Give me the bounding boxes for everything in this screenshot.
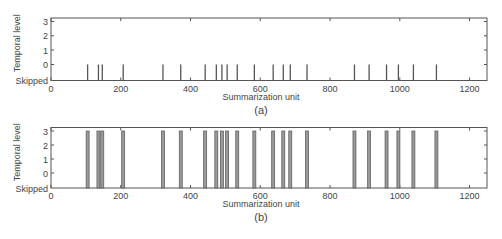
data-bar: [179, 131, 182, 188]
y-tick-label: 2: [43, 31, 48, 41]
data-bar: [272, 131, 275, 188]
data-bar: [215, 131, 218, 188]
data-bar: [368, 131, 371, 188]
data-bar: [97, 131, 100, 188]
figure: 020040060080010001200Skipped0123Temporal…: [0, 0, 502, 239]
y-tick-label: Skipped: [15, 76, 48, 86]
x-tick-label: 1200: [460, 84, 480, 94]
chart-panel-a: 020040060080010001200Skipped0123Temporal…: [12, 14, 487, 116]
x-tick-label: 400: [183, 84, 198, 94]
y-tick-label: 0: [43, 169, 48, 179]
x-tick-label: 1000: [390, 191, 410, 201]
plot-frame: [51, 128, 487, 189]
x-tick-label: 800: [323, 191, 338, 201]
y-tick-label: 0: [43, 60, 48, 70]
panel-caption: (a): [254, 104, 267, 116]
data-bar: [353, 131, 356, 188]
x-tick-label: 1200: [460, 191, 480, 201]
x-axis-label: Summarization unit: [222, 92, 300, 102]
x-tick-label: 400: [183, 191, 198, 201]
y-tick-label: 3: [43, 17, 48, 27]
x-axis-label: Summarization unit: [222, 199, 300, 209]
data-bar: [86, 131, 89, 188]
x-tick-label: 0: [48, 191, 53, 201]
data-bar: [161, 131, 164, 188]
data-bar: [220, 131, 223, 188]
y-tick-label: Skipped: [15, 184, 48, 194]
data-bar: [397, 131, 400, 188]
plot-frame: [51, 18, 487, 81]
x-tick-label: 200: [113, 84, 128, 94]
panel-caption: (b): [254, 211, 267, 223]
y-tick-label: 3: [43, 127, 48, 137]
chart-panel-b: 020040060080010001200Skipped0123Temporal…: [12, 123, 487, 223]
x-tick-label: 800: [323, 84, 338, 94]
y-tick-label: 1: [43, 46, 48, 56]
data-bar: [289, 131, 292, 188]
data-bar: [226, 131, 229, 188]
x-tick-label: 200: [113, 191, 128, 201]
data-bar: [435, 131, 438, 188]
y-tick-label: 1: [43, 155, 48, 165]
y-axis-label: Temporal level: [12, 14, 22, 72]
data-bar: [412, 131, 415, 188]
x-tick-label: 1000: [390, 84, 410, 94]
x-tick-label: 0: [48, 84, 53, 94]
data-bar: [253, 131, 256, 188]
data-bar: [122, 131, 125, 188]
y-tick-label: 2: [43, 141, 48, 151]
data-bar: [306, 131, 309, 188]
data-bar: [236, 131, 239, 188]
data-bar: [282, 131, 285, 188]
data-bar: [385, 131, 388, 188]
y-axis-label: Temporal level: [12, 123, 22, 181]
data-bar: [204, 131, 207, 188]
data-bar: [101, 131, 104, 188]
